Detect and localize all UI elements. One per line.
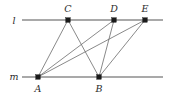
segments-group xyxy=(38,20,145,77)
point-label-a: A xyxy=(34,83,42,94)
line-labels-group: l m xyxy=(9,15,18,82)
point-d-dot xyxy=(112,18,117,23)
segment-b-d xyxy=(99,20,114,77)
point-label-d: D xyxy=(109,3,118,14)
segment-a-e xyxy=(38,20,145,77)
point-b-dot xyxy=(97,75,102,80)
point-e-dot xyxy=(143,18,148,23)
point-a-dot xyxy=(36,75,41,80)
point-c-dot xyxy=(66,18,71,23)
point-label-c: C xyxy=(64,3,72,14)
line-label-m: m xyxy=(9,71,18,82)
parallel-lines-group xyxy=(22,20,163,77)
geometry-figure: l m A B C D E xyxy=(0,0,170,95)
segment-b-e xyxy=(99,20,145,77)
segment-a-d xyxy=(38,20,114,77)
point-label-b: B xyxy=(95,83,103,94)
line-label-l: l xyxy=(12,15,15,26)
segment-a-c xyxy=(38,20,68,77)
segment-b-c xyxy=(68,20,99,77)
point-label-e: E xyxy=(141,3,149,14)
figure-canvas: l m A B C D E xyxy=(0,0,170,95)
